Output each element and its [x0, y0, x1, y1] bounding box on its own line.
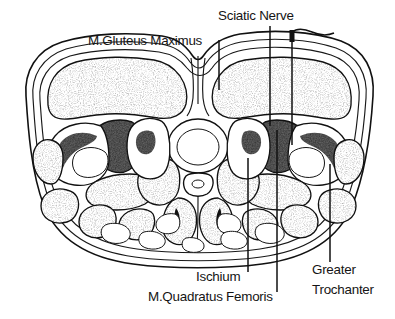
fat-lobule-bottom-1 — [101, 223, 130, 243]
lateral-muscle-right-1 — [318, 189, 356, 223]
leader-sciatic-nerve-cap — [290, 30, 295, 42]
femur-neck-right — [289, 148, 325, 178]
label-gluteus-maximus: M.Gluteus Maximus — [88, 33, 203, 48]
gluteus-maximus-left — [48, 57, 187, 119]
label-greater-trochanter-line2: Trochanter — [312, 282, 375, 297]
gluteus-maximus-right — [212, 57, 351, 119]
label-sciatic-nerve: Sciatic Nerve — [218, 8, 294, 23]
anatomy-figure: M.Gluteus Maximus Sciatic Nerve Ischium … — [0, 0, 395, 319]
label-greater-trochanter-line1: Greater — [312, 262, 356, 277]
rectum-lumen — [177, 129, 219, 165]
lateral-muscle-right-2 — [281, 205, 318, 238]
femur-neck-left — [73, 148, 109, 178]
label-quadratus-femoris: M.Quadratus Femoris — [148, 289, 273, 304]
fat-lobule-bottom-3 — [255, 223, 284, 243]
lateral-muscle-left-1 — [41, 189, 79, 223]
cross-section-drawing: M.Gluteus Maximus Sciatic Nerve Ischium … — [0, 0, 395, 319]
coccyx-center — [192, 180, 204, 188]
label-ischium: Ischium — [196, 269, 240, 284]
